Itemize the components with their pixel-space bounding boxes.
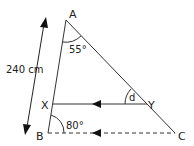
- arrowhead-up-icon: [40, 17, 48, 28]
- length-label-AB: 240 cm: [6, 64, 44, 75]
- side-AB: [48, 20, 66, 133]
- vertex-label-A: A: [69, 8, 77, 21]
- vertex-label-C: C: [178, 130, 186, 143]
- angle-label-B: 80°: [66, 120, 84, 131]
- side-AC: [66, 20, 175, 133]
- length-dimension-arrow: [23, 17, 48, 135]
- arrowhead-down-icon: [23, 124, 31, 135]
- triangle-diagram: A B C X Y 55° 80° d 240 cm: [0, 0, 194, 146]
- vertex-label-X: X: [41, 99, 49, 112]
- parallel-arrow-icon: [92, 129, 101, 137]
- vertex-label-Y: Y: [147, 99, 155, 112]
- vertex-label-B: B: [36, 130, 44, 143]
- parallel-arrow-icon: [92, 100, 101, 108]
- angle-arc-B: [51, 115, 64, 133]
- angle-arc-A: [63, 36, 82, 42]
- angle-label-d: d: [129, 92, 135, 103]
- angle-label-A: 55°: [69, 44, 87, 55]
